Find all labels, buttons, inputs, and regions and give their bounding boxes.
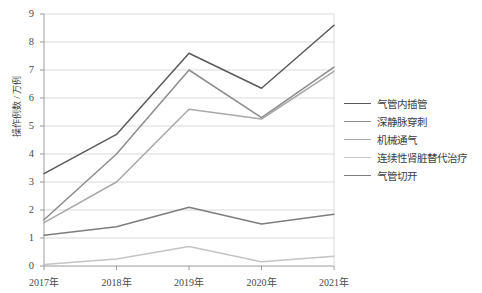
legend-item[interactable]: 机械通气 [344,130,482,148]
legend-label: 气管内插管 [377,96,427,111]
series-line [44,71,334,222]
series-line [44,207,334,235]
legend-color-swatch [344,121,371,122]
legend-color-swatch [344,103,371,104]
legend-color-swatch [344,157,371,158]
line-chart: 操作例数 / 万例 0123456789 2017年2018年2019年2020… [0,0,482,293]
legend-label: 机械通气 [377,132,417,147]
legend-label: 气管切开 [377,168,417,183]
series-line [44,67,334,220]
legend-color-swatch [344,139,371,140]
series-line [44,246,334,264]
legend-item[interactable]: 气管内插管 [344,94,482,112]
legend-item[interactable]: 连续性肾脏替代治疗 [344,149,482,167]
legend-item[interactable]: 气管切开 [344,167,482,185]
legend-label: 深静脉穿刺 [377,114,427,129]
legend-color-swatch [344,175,371,176]
legend-label: 连续性肾脏替代治疗 [377,150,467,165]
legend-item[interactable]: 深静脉穿刺 [344,112,482,130]
chart-legend: 气管内插管深静脉穿刺机械通气连续性肾脏替代治疗气管切开 [344,94,482,185]
